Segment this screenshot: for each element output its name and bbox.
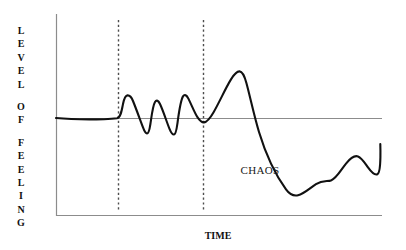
y-axis-label-letter: I — [10, 189, 32, 202]
y-axis-label-word-feeling: F E E L I N G — [10, 136, 32, 230]
y-axis-label-letter: L — [10, 78, 32, 91]
y-axis-label-letter: F — [10, 113, 32, 126]
y-axis-label-spacer — [10, 91, 32, 100]
y-axis-label-letter: E — [10, 64, 32, 77]
y-axis-label-letter: E — [10, 37, 32, 50]
y-axis-label-letter: F — [10, 136, 32, 149]
y-axis-label-letter: O — [10, 100, 32, 113]
x-axis-label: TIME — [186, 230, 250, 241]
y-axis-label-letter: E — [10, 163, 32, 176]
y-axis-label-letter: N — [10, 203, 32, 216]
y-axis-label-letter: L — [10, 24, 32, 37]
y-axis-label: L E V E L O F F E E L I N G — [10, 24, 32, 230]
y-axis-label-letter: G — [10, 216, 32, 229]
y-axis-label-letter: E — [10, 149, 32, 162]
level-of-feeling-curve — [56, 71, 380, 195]
plot-area — [0, 0, 406, 250]
y-axis-label-letter: V — [10, 51, 32, 64]
y-axis-label-letter: L — [10, 176, 32, 189]
y-axis-label-spacer — [10, 127, 32, 136]
chaos-annotation: CHAOS — [228, 164, 292, 176]
y-axis-label-word-of: O F — [10, 100, 32, 127]
chart-figure: L E V E L O F F E E L I N G CHAOS T — [0, 0, 406, 250]
y-axis-label-word-level: L E V E L — [10, 24, 32, 91]
